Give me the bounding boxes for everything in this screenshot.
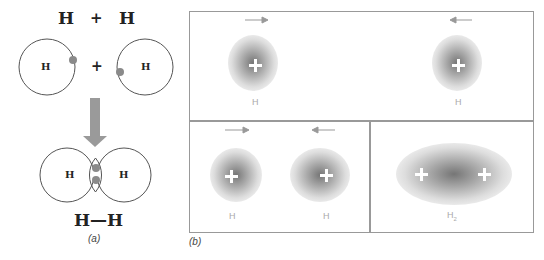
label-top-left-h: H <box>252 97 259 107</box>
label-h2-subscript: 2 <box>454 216 457 222</box>
nucleus-h2-right <box>478 168 491 181</box>
caption-b: (b) <box>189 236 201 247</box>
label-bottom-left-h1: H <box>229 211 236 221</box>
label-bottom-left-h2: H <box>323 211 330 221</box>
nucleus-top-left <box>249 59 262 72</box>
label-h2: H2 <box>447 210 457 222</box>
electron-cloud-h2-molecule <box>396 143 512 205</box>
nucleus-bottom-left-a <box>225 170 238 183</box>
nucleus-bottom-left-b <box>320 169 333 182</box>
nucleus-top-right <box>452 59 465 72</box>
label-top-right-h: H <box>455 97 462 107</box>
nucleus-h2-left <box>415 168 428 181</box>
